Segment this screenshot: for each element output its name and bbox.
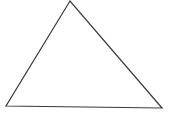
diagram-canvas (0, 0, 172, 118)
triangle-shape (6, 1, 162, 108)
triangle-figure (0, 0, 172, 118)
